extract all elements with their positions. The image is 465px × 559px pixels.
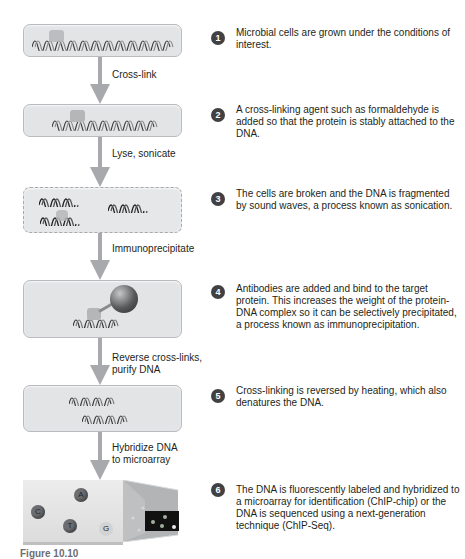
step-text-2: A cross-linking agent such as formaldehy… — [236, 104, 462, 140]
fluorescent-spot — [172, 525, 176, 529]
step-text-5: Cross-linking is reversed by heating, wh… — [236, 385, 462, 409]
arrow-label-line: Reverse cross-links, — [112, 352, 202, 364]
protein-icon — [49, 30, 64, 42]
step-text-3: The cells are broken and the DNA is frag… — [236, 188, 462, 212]
step-badge-6: 6 — [211, 483, 225, 497]
stage-2-box — [23, 104, 182, 137]
arrow-label-hybridize: Hybridize DNA to microarray — [112, 442, 178, 466]
arrow-label-line: Hybridize DNA — [112, 442, 178, 454]
step-badge-4: 4 — [211, 285, 225, 299]
step-text-6: The DNA is fluorescently labeled and hyb… — [236, 484, 462, 532]
microarray-spot-g: G — [99, 522, 113, 536]
stage-4-box — [23, 280, 182, 338]
protein-icon — [56, 210, 68, 221]
step-badge-3: 3 — [211, 192, 225, 206]
single-strand-dna-icon — [69, 392, 117, 406]
stage-5-box — [23, 385, 182, 432]
arrow-label-reverse-cross-links: Reverse cross-links, purify DNA — [112, 352, 202, 376]
stage-1-box — [23, 24, 182, 57]
step-badge-2: 2 — [211, 108, 225, 122]
arrow-label-lyse-sonicate: Lyse, sonicate — [112, 148, 176, 160]
arrow-label-line: purify DNA — [112, 364, 202, 376]
step-badge-1: 1 — [211, 31, 225, 45]
step-text-1: Microbial cells are grown under the cond… — [236, 27, 462, 51]
single-strand-dna-icon — [82, 410, 130, 424]
arrow-down-icon — [92, 57, 108, 104]
dna-fragment-icon — [39, 193, 79, 207]
microarray-spot-c: C — [31, 505, 45, 519]
step-text-4: Antibodies are added and bind to the tar… — [236, 283, 462, 331]
microarray-spot-t: T — [63, 519, 77, 533]
microarray-spot-a: A — [74, 488, 88, 502]
antibody-bead-icon — [110, 285, 138, 313]
dna-helix-icon — [52, 113, 160, 131]
step-badge-5: 5 — [211, 389, 225, 403]
dna-fragment-icon — [108, 199, 150, 213]
arrow-label-cross-link: Cross-link — [112, 69, 156, 81]
microarray-chip: A C T G — [23, 480, 123, 545]
stage-3-box — [23, 187, 182, 233]
fluorescent-spot — [163, 515, 167, 519]
fluorescent-spot — [160, 524, 164, 528]
figure-caption: Figure 10.10 — [20, 548, 78, 559]
arrow-down-icon — [92, 137, 108, 187]
arrow-down-icon — [92, 432, 108, 480]
arrow-label-immunoprecipitate: Immunoprecipitate — [112, 243, 194, 255]
fluorescence-readout-panel — [145, 511, 179, 531]
arrow-label-line: to microarray — [112, 454, 178, 466]
arrow-down-icon — [92, 338, 108, 385]
arrow-down-icon — [92, 233, 108, 280]
protein-icon — [70, 110, 85, 122]
fluorescent-spot — [151, 520, 155, 524]
